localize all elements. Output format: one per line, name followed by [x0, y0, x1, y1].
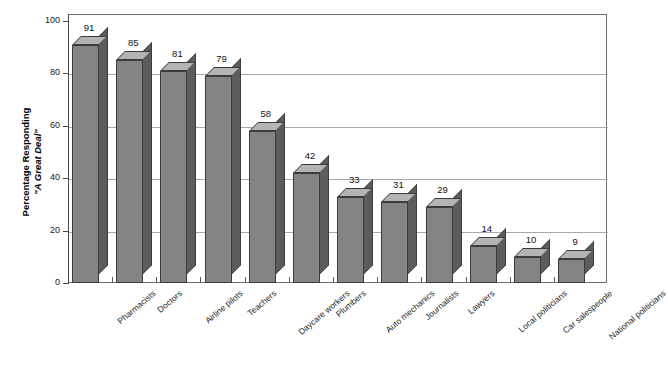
bar-front-face: [470, 246, 497, 283]
x-axis-category-label: Teachers: [246, 289, 278, 318]
x-axis-tick-mark: [510, 277, 511, 283]
bar-value-label: 85: [112, 38, 154, 48]
bar: 33: [337, 188, 364, 283]
bar-value-label: 79: [201, 54, 243, 64]
y-axis-tick-mark: [63, 283, 68, 284]
bar-front-face: [381, 202, 408, 283]
y-axis-line: [68, 14, 69, 284]
bar: 29: [426, 198, 453, 283]
bar-front-face: [293, 173, 320, 283]
y-axis-tick-mark: [63, 126, 68, 127]
bar-value-label: 91: [68, 23, 110, 33]
y-axis-tick-label: 100: [30, 16, 60, 25]
bar-value-label: 42: [289, 151, 331, 161]
y-axis-tick-mark: [63, 231, 68, 232]
bar-value-label: 29: [422, 185, 464, 195]
x-axis-tick-mark: [554, 277, 555, 283]
bar: 31: [381, 193, 408, 283]
chart-title-cropped: [300, 0, 520, 4]
x-axis-tick-mark: [245, 277, 246, 283]
x-axis-category-label: Airline pilots: [204, 289, 245, 325]
bar-value-label: 81: [156, 49, 198, 59]
bar-value-label: 58: [245, 109, 287, 119]
y-axis-title-line2: "A Great Deal": [32, 67, 44, 257]
x-axis-category-label: Car salespeople: [561, 289, 614, 335]
x-axis-tick-mark: [156, 277, 157, 283]
x-axis-tick-mark: [289, 277, 290, 283]
bar: 9: [558, 250, 585, 283]
x-axis-category-label: Lawyers: [466, 289, 496, 316]
bar: 14: [470, 237, 497, 283]
bar: 42: [293, 164, 320, 283]
bar: 81: [160, 62, 187, 283]
bar-value-label: 10: [510, 235, 552, 245]
y-axis-title-line1: Percentage Responding: [20, 67, 32, 257]
x-axis-category-label: National politicians: [608, 289, 668, 341]
x-axis-tick-mark: [466, 277, 467, 283]
bar-value-label: 33: [333, 175, 375, 185]
bar: 85: [116, 51, 143, 283]
x-axis-tick-mark: [421, 277, 422, 283]
x-axis-tick-mark: [112, 277, 113, 283]
bar-value-label: 9: [554, 237, 596, 247]
y-axis-tick-mark: [63, 178, 68, 179]
y-axis-title: Percentage Responding "A Great Deal": [20, 67, 44, 257]
bar-side-face: [187, 53, 196, 274]
x-axis-tick-mark: [333, 277, 334, 283]
bar-front-face: [72, 45, 99, 283]
bar: 58: [249, 122, 276, 283]
x-axis-category-label: Doctors: [156, 289, 184, 315]
bar: 91: [72, 36, 99, 283]
bar-front-face: [116, 60, 143, 283]
bar-front-face: [205, 76, 232, 283]
bar-front-face: [337, 197, 364, 283]
bar-side-face: [143, 42, 152, 274]
x-axis-tick-mark: [200, 277, 201, 283]
bar-front-face: [160, 71, 187, 283]
bar-front-face: [249, 131, 276, 283]
bar-value-label: 14: [466, 224, 508, 234]
bar-side-face: [276, 113, 285, 274]
y-axis-tick-label: 0: [30, 278, 60, 287]
bar-side-face: [99, 27, 108, 274]
y-axis-tick-mark: [63, 21, 68, 22]
x-axis-tick-mark: [377, 277, 378, 283]
bar: 10: [514, 248, 541, 283]
bar-side-face: [232, 58, 241, 274]
bar-front-face: [514, 257, 541, 283]
bar-side-face: [320, 155, 329, 274]
y-axis-tick-mark: [63, 73, 68, 74]
bar-front-face: [426, 207, 453, 283]
bar: 79: [205, 67, 232, 283]
x-axis-category-label: Pharmacists: [116, 289, 158, 326]
bar-value-label: 31: [377, 180, 419, 190]
bar-front-face: [558, 259, 585, 283]
